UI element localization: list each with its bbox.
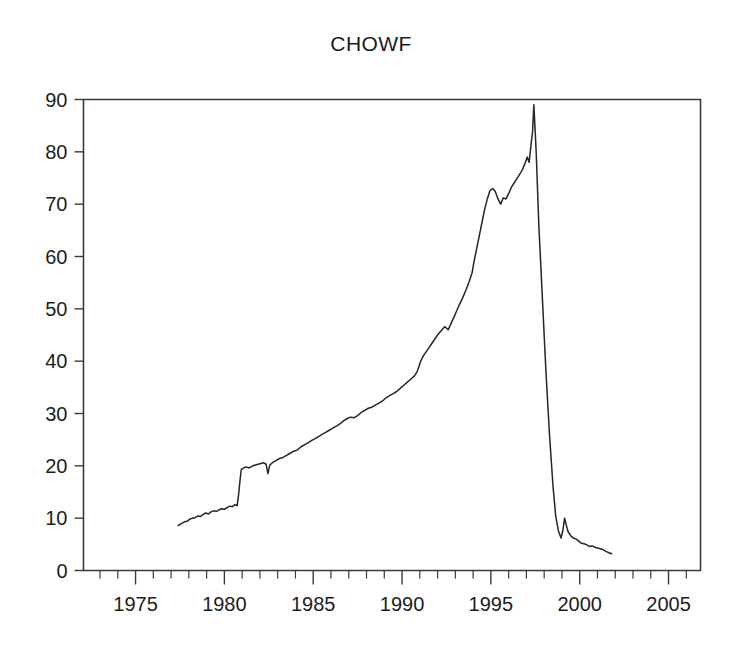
- y-tick-label-0: 0: [56, 560, 67, 582]
- x-tick-label-1990: 1990: [380, 593, 425, 615]
- y-tick-label-50: 50: [45, 298, 67, 320]
- y-tick-label-80: 80: [45, 141, 67, 163]
- x-axis-ticks: [136, 571, 669, 585]
- x-tick-label-1995: 1995: [469, 593, 514, 615]
- chart-figure: CHOWF 0102030405060708090 19751980198519…: [0, 0, 742, 652]
- series-group: [178, 105, 611, 554]
- x-tick-label-1980: 1980: [202, 593, 247, 615]
- y-tick-label-20: 20: [45, 455, 67, 477]
- y-tick-label-70: 70: [45, 193, 67, 215]
- axes-group: 0102030405060708090 19751980198519901995…: [45, 89, 700, 615]
- y-tick-label-90: 90: [45, 89, 67, 111]
- y-axis-ticks: [75, 100, 84, 571]
- line-chart-plot: 0102030405060708090 19751980198519901995…: [0, 0, 742, 652]
- y-tick-label-60: 60: [45, 246, 67, 268]
- x-tick-label-2000: 2000: [557, 593, 602, 615]
- y-tick-label-30: 30: [45, 403, 67, 425]
- x-tick-label-1985: 1985: [291, 593, 336, 615]
- x-axis-minor-ticks: [100, 571, 686, 579]
- data-series-line: [178, 105, 611, 554]
- y-tick-label-10: 10: [45, 507, 67, 529]
- x-tick-label-2005: 2005: [646, 593, 691, 615]
- y-tick-label-40: 40: [45, 350, 67, 372]
- x-tick-label-1975: 1975: [113, 593, 158, 615]
- plot-frame: [84, 100, 701, 571]
- x-axis-tick-labels: 1975198019851990199520002005: [113, 593, 690, 615]
- y-axis-tick-labels: 0102030405060708090: [45, 89, 67, 582]
